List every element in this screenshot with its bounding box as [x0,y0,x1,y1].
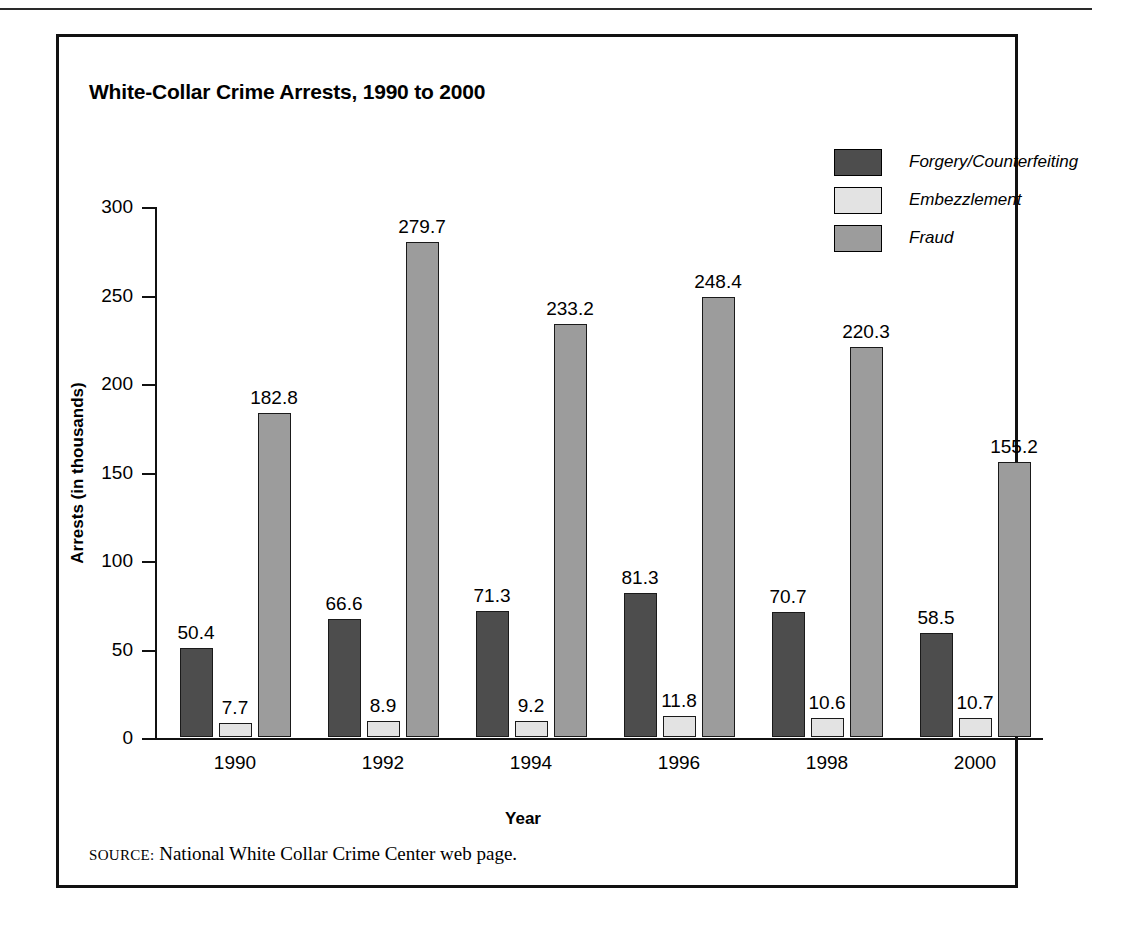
bar-value-label: 248.4 [694,271,742,293]
bar-value-label: 220.3 [842,321,890,343]
bar-value-label: 155.2 [990,436,1038,458]
bar-value-label: 7.7 [222,697,248,719]
y-tick-label-150: 150 [101,462,133,484]
bar-1996-embezzlement[interactable]: 11.8 [663,716,696,737]
legend-label-forgery: Forgery/Counterfeiting [909,152,1078,172]
bar-1992-forgery-counterfeiting[interactable]: 66.6 [328,619,361,737]
source-label: SOURCE: [89,847,154,863]
bar-1990-embezzlement[interactable]: 7.7 [219,723,252,737]
x-axis-line [155,738,1043,740]
y-tick-300: 300 [142,207,155,209]
x-tick-label-1990: 1990 [214,752,256,774]
bar-value-label: 66.6 [326,593,363,615]
bar-1994-fraud[interactable]: 233.2 [554,324,587,737]
bar-2000-embezzlement[interactable]: 10.7 [959,718,992,737]
bar-1992-embezzlement[interactable]: 8.9 [367,721,400,737]
bar-1998-fraud[interactable]: 220.3 [850,347,883,737]
page-top-rule [0,8,1092,10]
bar-2000-forgery-counterfeiting[interactable]: 58.5 [920,633,953,737]
chart-title: White-Collar Crime Arrests, 1990 to 2000 [89,80,485,104]
x-tick-label-2000: 2000 [954,752,996,774]
y-tick-label-250: 250 [101,285,133,307]
bar-group-1990: 50.47.7182.81990 [180,206,291,737]
x-tick-label-1998: 1998 [806,752,848,774]
y-tick-label-50: 50 [112,639,133,661]
plot-area: Arrests (in thousands) 05010015020025030… [155,207,1043,739]
y-tick-200: 200 [142,384,155,386]
bar-value-label: 70.7 [770,586,807,608]
y-tick-label-200: 200 [101,373,133,395]
bar-1992-fraud[interactable]: 279.7 [406,242,439,737]
bar-value-label: 233.2 [546,298,594,320]
bar-group-1994: 71.39.2233.21994 [476,206,587,737]
bar-value-label: 10.6 [809,692,846,714]
bar-group-1996: 81.311.8248.41996 [624,206,735,737]
y-tick-label-100: 100 [101,550,133,572]
bar-value-label: 71.3 [474,585,511,607]
x-tick-label-1994: 1994 [510,752,552,774]
bar-1998-embezzlement[interactable]: 10.6 [811,718,844,737]
bar-1996-fraud[interactable]: 248.4 [702,297,735,737]
bar-1994-embezzlement[interactable]: 9.2 [515,721,548,737]
y-tick-label-300: 300 [101,196,133,218]
bar-value-label: 182.8 [250,387,298,409]
bar-value-label: 81.3 [622,567,659,589]
legend-item-forgery: Forgery/Counterfeiting [834,143,1078,181]
bar-value-label: 50.4 [178,622,215,644]
source-text: National White Collar Crime Center web p… [159,843,517,864]
x-axis-title: Year [505,809,541,829]
source-note: SOURCE: National White Collar Crime Cent… [89,843,517,865]
bar-group-1992: 66.68.9279.71992 [328,206,439,737]
bar-group-1998: 70.710.6220.31998 [772,206,883,737]
y-tick-label-0: 0 [122,727,133,749]
bar-1990-fraud[interactable]: 182.8 [258,413,291,737]
bar-value-label: 10.7 [957,692,994,714]
legend-swatch-forgery [834,149,882,176]
figure-container: White-Collar Crime Arrests, 1990 to 2000… [56,34,1018,888]
x-tick-label-1992: 1992 [362,752,404,774]
bar-2000-fraud[interactable]: 155.2 [998,462,1031,737]
y-axis-line [155,207,157,740]
bar-1998-forgery-counterfeiting[interactable]: 70.7 [772,612,805,737]
y-tick-150: 150 [142,473,155,475]
x-tick-label-1996: 1996 [658,752,700,774]
bar-value-label: 11.8 [661,690,697,712]
bar-1994-forgery-counterfeiting[interactable]: 71.3 [476,611,509,737]
bar-value-label: 9.2 [518,695,544,717]
bar-value-label: 279.7 [398,216,446,238]
bar-1996-forgery-counterfeiting[interactable]: 81.3 [624,593,657,737]
bar-group-2000: 58.510.7155.22000 [920,206,1031,737]
y-tick-250: 250 [142,296,155,298]
bar-value-label: 58.5 [918,607,955,629]
bar-value-label: 8.9 [370,695,396,717]
y-tick-0: 0 [142,738,155,740]
bar-1990-forgery-counterfeiting[interactable]: 50.4 [180,648,213,737]
y-axis-title: Arrests (in thousands) [68,382,88,563]
y-tick-50: 50 [142,650,155,652]
y-tick-100: 100 [142,561,155,563]
